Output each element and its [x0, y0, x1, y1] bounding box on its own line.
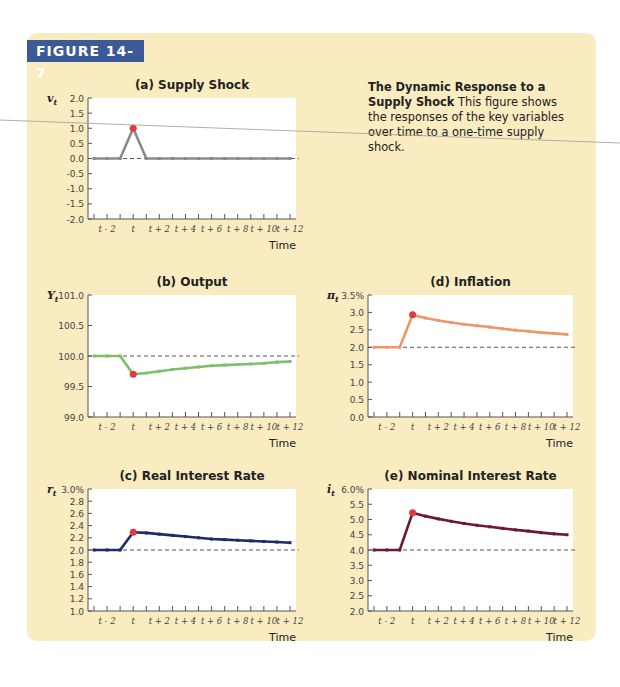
- scan-artifact-line: [0, 0, 620, 687]
